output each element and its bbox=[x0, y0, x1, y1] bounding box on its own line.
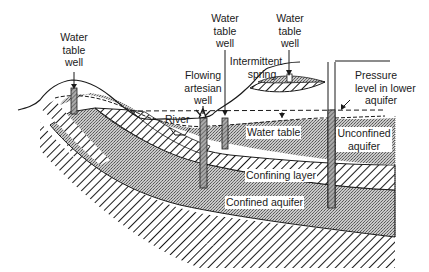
label-confined-aquifer: Confined aquifer bbox=[225, 196, 304, 209]
label-water-table-well-left: Water table well bbox=[55, 31, 93, 69]
well-right bbox=[287, 74, 292, 82]
label-line: level in lower bbox=[355, 82, 416, 95]
label-pressure-level: Pressure level in lower aquifer bbox=[355, 69, 416, 107]
pressure-level-line bbox=[130, 110, 385, 111]
aquifer-diagram: Water table well Water table well Water … bbox=[0, 0, 429, 272]
label-line: aquifer bbox=[337, 140, 391, 153]
label-line: well bbox=[55, 56, 93, 69]
label-line: spring bbox=[226, 68, 286, 81]
label-line: Unconfined bbox=[337, 127, 391, 140]
label-line: table bbox=[270, 25, 310, 38]
label-flowing-artesian-well: Flowing artesian well bbox=[180, 69, 226, 107]
label-line: Pressure bbox=[355, 69, 416, 82]
well-left bbox=[71, 88, 77, 114]
label-water-table: Water table bbox=[246, 126, 301, 139]
label-line: well bbox=[180, 94, 226, 107]
label-line: table bbox=[55, 44, 93, 57]
label-line: Water bbox=[270, 12, 310, 25]
label-line: Intermittent bbox=[226, 55, 286, 68]
well-deep bbox=[328, 110, 335, 208]
label-unconfined-aquifer: Unconfined aquifer bbox=[336, 127, 392, 152]
label-confining-layer: Confining layer bbox=[245, 169, 317, 182]
label-line: Flowing bbox=[180, 69, 226, 82]
label-line: well bbox=[270, 37, 310, 50]
label-line: artesian bbox=[180, 82, 226, 95]
label-water-table-well-mid: Water table well bbox=[205, 12, 245, 50]
well-mid bbox=[222, 118, 228, 149]
well-artesian bbox=[200, 118, 207, 188]
label-water-table-well-right: Water table well bbox=[270, 12, 310, 50]
label-river: River bbox=[164, 113, 191, 126]
label-line: aquifer bbox=[355, 94, 416, 107]
label-line: Water bbox=[205, 12, 245, 25]
label-line: table bbox=[205, 25, 245, 38]
label-intermittent-spring: Intermittent spring bbox=[226, 55, 286, 80]
label-line: Water bbox=[55, 31, 93, 44]
label-line: well bbox=[205, 37, 245, 50]
